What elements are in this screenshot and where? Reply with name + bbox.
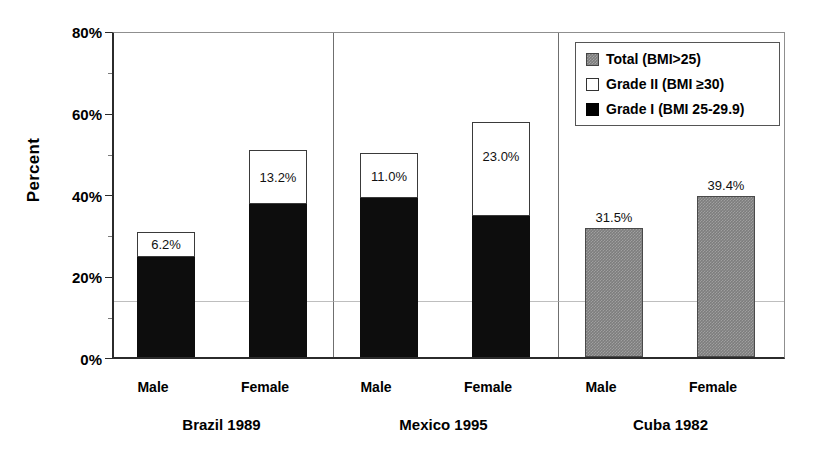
bar-value-label: 23.0% bbox=[473, 149, 529, 162]
category-label-mexico-male: Male bbox=[328, 380, 424, 394]
chart-container: Percent 80% 60% 40% 20% 0% 6.2% bbox=[0, 0, 814, 452]
bar-segment-grade-i bbox=[360, 198, 418, 357]
legend-item-total[interactable]: Total (BMI>25) bbox=[586, 52, 771, 66]
legend-item-label: Total (BMI>25) bbox=[606, 52, 701, 66]
y-tick-label-80: 80% bbox=[56, 25, 102, 40]
category-label-cuba-male: Male bbox=[553, 380, 649, 394]
bar-segment-grade-ii: 11.0% bbox=[360, 153, 418, 198]
bar-brazil-male[interactable]: 6.2% bbox=[137, 232, 195, 358]
bar-segment-grade-i bbox=[472, 216, 530, 357]
bar-segment-grade-ii: 23.0% bbox=[472, 122, 530, 216]
bar-segment-grade-i bbox=[249, 204, 307, 357]
bar-brazil-female[interactable]: 13.2% bbox=[249, 150, 307, 357]
bar-cuba-female[interactable]: 39.4% bbox=[697, 196, 755, 357]
y-tick-label-40: 40% bbox=[56, 189, 102, 204]
category-label-cuba-female: Female bbox=[665, 380, 761, 394]
bar-segment-total bbox=[585, 228, 643, 357]
y-tick-label-20: 20% bbox=[56, 270, 102, 285]
group-divider-brazil-mexico bbox=[333, 33, 334, 357]
group-label-cuba: Cuba 1982 bbox=[556, 417, 785, 432]
legend: Total (BMI>25) Grade II (BMI ≥30) Grade … bbox=[575, 42, 780, 126]
bar-segment-grade-ii: 13.2% bbox=[249, 150, 307, 204]
legend-item-label: Grade II (BMI ≥30) bbox=[606, 77, 724, 91]
bar-segment-grade-ii: 6.2% bbox=[137, 232, 195, 257]
legend-item-label: Grade I (BMI 25-29.9) bbox=[606, 102, 745, 116]
legend-item-grade-ii[interactable]: Grade II (BMI ≥30) bbox=[586, 77, 771, 91]
category-label-mexico-female: Female bbox=[440, 380, 536, 394]
bar-value-label: 39.4% bbox=[697, 179, 755, 192]
bar-segment-grade-i bbox=[137, 257, 195, 357]
y-axis-title: Percent bbox=[24, 110, 44, 230]
bar-segment-total bbox=[697, 196, 755, 357]
grade-i-swatch-icon bbox=[586, 103, 599, 116]
bar-value-label: 11.0% bbox=[361, 169, 417, 182]
bar-value-label: 6.2% bbox=[138, 238, 194, 251]
inner-gridline bbox=[114, 301, 784, 302]
y-tick-label-60: 60% bbox=[56, 107, 102, 122]
bar-mexico-female[interactable]: 23.0% bbox=[472, 122, 530, 358]
category-label-brazil-female: Female bbox=[217, 380, 313, 394]
bar-value-label: 31.5% bbox=[585, 211, 643, 224]
grade-ii-swatch-icon bbox=[586, 78, 599, 91]
bar-mexico-male[interactable]: 11.0% bbox=[360, 153, 418, 357]
total-swatch-icon bbox=[586, 53, 599, 66]
category-label-brazil-male: Male bbox=[105, 380, 201, 394]
group-divider-mexico-cuba bbox=[558, 33, 559, 357]
legend-item-grade-i[interactable]: Grade I (BMI 25-29.9) bbox=[586, 102, 771, 116]
group-label-brazil: Brazil 1989 bbox=[112, 417, 331, 432]
bar-value-label: 13.2% bbox=[250, 170, 306, 183]
group-label-mexico: Mexico 1995 bbox=[331, 417, 556, 432]
bar-cuba-male[interactable]: 31.5% bbox=[585, 228, 643, 357]
y-tick-label-0: 0% bbox=[56, 352, 102, 367]
